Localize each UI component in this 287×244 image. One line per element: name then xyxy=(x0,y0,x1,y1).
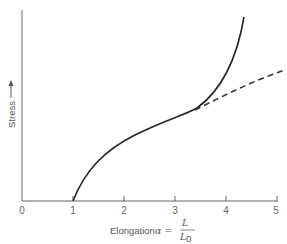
fraction-denominator-sub: 0 xyxy=(186,233,191,244)
svg-text:1: 1 xyxy=(70,205,76,216)
y-axis-label: Stress xyxy=(6,101,17,128)
x-tick-labels: 0 1 2 3 4 5 xyxy=(19,205,279,216)
svg-text:5: 5 xyxy=(273,205,279,216)
svg-text:0: 0 xyxy=(19,205,25,216)
arrow-up-icon xyxy=(9,80,14,98)
svg-text:2: 2 xyxy=(121,205,127,216)
svg-text:Stress: Stress xyxy=(6,101,17,128)
stress-elongation-chart: 0 1 2 3 4 5 Stress Elongation α = L L 0 xyxy=(0,0,287,244)
x-axis-label: Elongation xyxy=(110,225,155,236)
alpha-symbol: α = xyxy=(155,225,172,236)
fraction-numerator: L xyxy=(181,217,188,228)
dashed-curve xyxy=(195,70,285,110)
x-ticks xyxy=(73,196,277,201)
solid-curve xyxy=(73,17,244,201)
svg-text:3: 3 xyxy=(172,205,178,216)
svg-text:4: 4 xyxy=(223,205,229,216)
